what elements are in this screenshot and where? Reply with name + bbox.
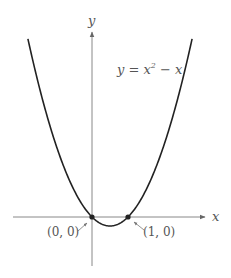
origin-label: (0, 0) (47, 225, 79, 239)
x-axis-label: x (212, 209, 220, 224)
parabola-graph: x y y = x2 − x (0, 0) (1, 0) (0, 0, 231, 278)
y-axis-label: y (87, 13, 96, 28)
origin-pointer-arrow (78, 223, 87, 231)
point-origin (89, 214, 94, 219)
point-one-zero (125, 214, 130, 219)
one-zero-label: (1, 0) (143, 225, 175, 239)
equation-label: y = x2 − x (116, 61, 183, 77)
